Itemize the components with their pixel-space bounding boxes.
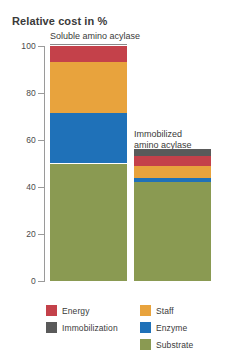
legend-label: Substrate [156, 340, 193, 350]
bar-label-underline [50, 44, 127, 45]
legend-item-immobilization[interactable]: Immobilization [46, 322, 118, 333]
legend-swatch-icon [140, 339, 151, 350]
legend-item-staff[interactable]: Staff [140, 305, 174, 316]
y-axis-tick-label: 100 [21, 41, 36, 51]
legend-swatch-icon [140, 322, 151, 333]
y-axis-tick [38, 281, 44, 282]
chart-figure: Relative cost in % 100806040200 Soluble … [0, 0, 228, 361]
chart-legend: EnergyStaffImmobilizationEnzymeSubstrate [46, 305, 222, 357]
y-axis-tick [38, 234, 44, 235]
legend-swatch-icon [140, 305, 151, 316]
legend-label: Immobilization [62, 323, 118, 333]
bar-segment-staff[interactable] [134, 166, 211, 178]
bar-segment-substrate[interactable] [50, 164, 127, 282]
legend-swatch-icon [46, 305, 57, 316]
legend-swatch-icon [46, 322, 57, 333]
legend-item-enzyme[interactable]: Enzyme [140, 322, 187, 333]
plot-area: 100806040200 Soluble amino acylaseImmobi… [0, 0, 228, 300]
legend-label: Enzyme [156, 323, 187, 333]
legend-label: Energy [62, 306, 90, 316]
bar-segment-staff[interactable] [50, 62, 127, 113]
bar-segment-energy[interactable] [134, 156, 211, 165]
stacked-bar-immobilized[interactable] [134, 149, 211, 281]
y-axis-tick-label: 80 [26, 88, 36, 98]
bar-segment-energy[interactable] [50, 46, 127, 62]
stacked-bar-soluble[interactable] [50, 46, 127, 281]
y-axis-line [44, 46, 45, 282]
y-axis-tick [38, 187, 44, 188]
legend-item-substrate[interactable]: Substrate [140, 339, 193, 350]
y-axis-tick [38, 140, 44, 141]
bar-label-immobilized: Immobilizedamino acylase [134, 129, 192, 150]
y-axis-tick-label: 60 [26, 135, 36, 145]
y-axis-tick-label: 20 [26, 229, 36, 239]
y-axis-tick [38, 46, 44, 47]
bar-segment-substrate[interactable] [134, 182, 211, 281]
bar-label-soluble: Soluble amino acylase [50, 31, 140, 42]
y-axis-tick-label: 0 [31, 276, 36, 286]
bar-segment-enzyme[interactable] [50, 113, 127, 164]
y-axis-tick [38, 93, 44, 94]
bar-segment-immobilization[interactable] [134, 149, 211, 156]
legend-item-energy[interactable]: Energy [46, 305, 90, 316]
legend-label: Staff [156, 306, 174, 316]
y-axis-tick-label: 40 [26, 182, 36, 192]
